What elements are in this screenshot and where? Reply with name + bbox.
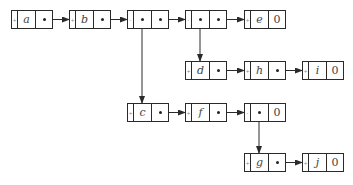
pointer-dot-icon [141,18,144,21]
next-pointer-field [210,11,226,28]
atom-field: i [309,62,327,79]
null-pointer-field: 0 [327,62,343,79]
pointer-dot-icon [217,18,220,21]
list-node-a: +a [11,10,53,29]
atom-field: g [251,154,269,171]
atom-field: a [18,11,36,28]
next-pointer-field [269,62,285,79]
pointer-dot-icon [159,18,162,21]
generalized-list-diagram: +a+b--+e0+d+h+i0+c+f-0+g+j0 [0,0,353,185]
list-node-sublist: - [185,10,227,29]
list-node-b: +b [69,10,111,29]
list-node-h: +h [244,61,286,80]
next-pointer-field [152,11,168,28]
pointer-dot-icon [258,111,261,114]
sublist-pointer-field [251,104,269,121]
sublist-pointer-field [134,11,152,28]
atom-field: j [309,154,327,171]
list-node-j: +j0 [302,153,344,172]
next-pointer-field [152,104,168,121]
list-node-c: +c [127,103,169,122]
atom-field: h [251,62,269,79]
pointer-dot-icon [199,18,202,21]
list-node-sublist: - [127,10,169,29]
null-pointer-field: 0 [269,11,285,28]
next-pointer-field [269,154,285,171]
list-node-sublist: -0 [244,103,286,122]
null-pointer-field: 0 [269,104,285,121]
next-pointer-field [36,11,52,28]
list-node-g: +g [244,153,286,172]
next-pointer-field [210,62,226,79]
list-node-d: +d [185,61,227,80]
pointer-dot-icon [159,111,162,114]
pointer-dot-icon [217,111,220,114]
pointer-dot-icon [276,161,279,164]
pointer-dot-icon [101,18,104,21]
pointer-dot-icon [217,69,220,72]
next-pointer-field [94,11,110,28]
atom-field: f [192,104,210,121]
next-pointer-field [210,104,226,121]
atom-field: c [134,104,152,121]
pointer-dot-icon [276,69,279,72]
null-pointer-field: 0 [327,154,343,171]
list-node-e: +e0 [244,10,286,29]
list-node-f: +f [185,103,227,122]
atom-field: b [76,11,94,28]
pointer-dot-icon [43,18,46,21]
sublist-pointer-field [192,11,210,28]
list-node-i: +i0 [302,61,344,80]
atom-field: e [251,11,269,28]
atom-field: d [192,62,210,79]
